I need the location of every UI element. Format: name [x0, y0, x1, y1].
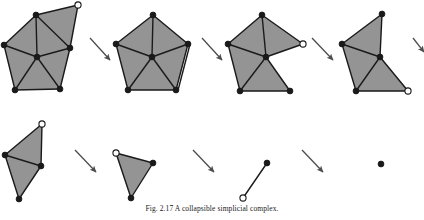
vertex-free [113, 150, 119, 156]
vertex [263, 54, 269, 60]
vertex [378, 161, 384, 167]
panel-8 [378, 161, 384, 167]
vertex [287, 88, 293, 94]
panel-7 [240, 160, 270, 201]
arrow-4 [413, 38, 424, 52]
arrow-2 [202, 38, 222, 60]
vertex-free [405, 88, 411, 94]
vertex-free [240, 195, 246, 201]
vertex [67, 45, 73, 51]
vertex-free [300, 41, 306, 47]
vertex [57, 86, 63, 92]
panel-1 [1, 2, 81, 93]
vertex [339, 41, 345, 47]
vertex [38, 163, 44, 169]
arrow-5 [75, 150, 96, 172]
vertex [128, 195, 134, 201]
vertex [1, 42, 7, 48]
vertex [149, 54, 155, 60]
vertex [377, 54, 383, 60]
vertex [16, 196, 22, 202]
arrow-1 [90, 38, 110, 60]
vertex [2, 152, 8, 158]
vertex [259, 12, 265, 18]
vertex [34, 54, 40, 60]
arrow-3 [312, 38, 333, 60]
vertex [150, 12, 156, 18]
vertex [12, 87, 18, 93]
vertex [379, 11, 385, 17]
panel-5 [2, 121, 45, 202]
vertex [113, 41, 119, 47]
edge [36, 15, 37, 57]
figure-caption: Fig. 2.17 A collapsible simplicial compl… [0, 204, 424, 213]
vertex [185, 41, 191, 47]
panel-4 [339, 11, 411, 94]
figure-canvas: Fig. 2.17 A collapsible simplicial compl… [0, 0, 424, 220]
vertex-free [39, 121, 45, 127]
vertex [353, 88, 359, 94]
panel-3 [225, 12, 306, 94]
vertex [237, 88, 243, 94]
vertex [33, 12, 39, 18]
vertex [125, 87, 131, 93]
vertex [173, 87, 179, 93]
vertex [225, 41, 231, 47]
edge [41, 124, 42, 166]
vertex [264, 160, 270, 166]
panel-2 [113, 12, 191, 93]
edge [15, 89, 60, 90]
arrow-6 [193, 150, 214, 172]
vertex-free [75, 2, 81, 8]
vertex [150, 160, 156, 166]
edge [243, 163, 267, 198]
simplicial-complex-diagram [0, 0, 424, 220]
edge [152, 15, 153, 57]
arrow-7 [302, 150, 323, 172]
panel-6 [113, 150, 156, 201]
